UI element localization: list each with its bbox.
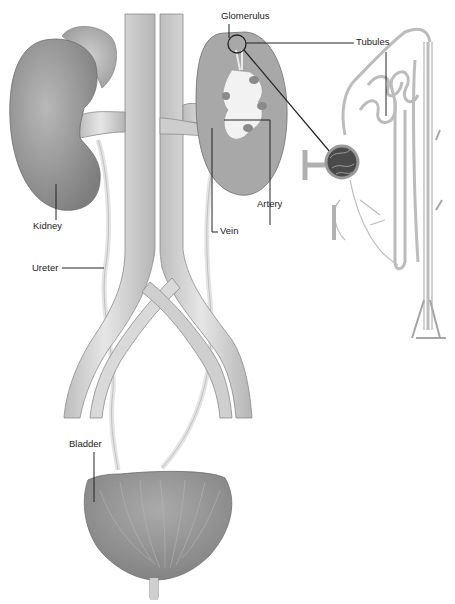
label-tubules: Tubules	[356, 36, 389, 47]
left-renal-vessels	[80, 112, 125, 138]
label-vein: Vein	[220, 225, 239, 236]
bladder	[84, 471, 231, 600]
glomerulus-detail	[326, 146, 358, 178]
urinary-system-diagram	[0, 0, 455, 604]
label-glomerulus: Glomerulus	[221, 10, 270, 21]
label-kidney: Kidney	[33, 220, 62, 231]
right-kidney-section	[196, 32, 287, 195]
label-ureter: Ureter	[32, 262, 58, 273]
nephron-detail	[343, 29, 430, 330]
label-bladder: Bladder	[69, 438, 102, 449]
label-artery: Artery	[257, 198, 282, 209]
